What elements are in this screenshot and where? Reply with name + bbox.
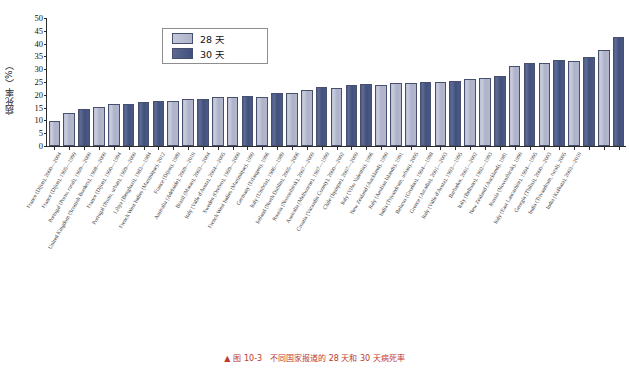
legend-label-28d: 28 天 — [200, 32, 225, 46]
bar — [583, 57, 595, 146]
x-tick-mark — [54, 146, 55, 150]
chart-legend: 28 天 30 天 — [162, 28, 268, 64]
x-tick-mark — [559, 146, 560, 150]
figure-caption: ▲图 10-3 不同国家报道的 28 天和 30 天病死率 — [0, 352, 629, 371]
bar — [405, 83, 417, 146]
x-tick-mark — [233, 146, 234, 150]
y-tick-label: 50 — [35, 14, 44, 23]
bar — [494, 76, 506, 146]
x-tick-mark — [426, 146, 427, 150]
x-tick-mark — [470, 146, 471, 150]
x-tick-mark — [247, 146, 248, 150]
bar — [316, 87, 328, 146]
bar — [613, 37, 625, 146]
bar — [197, 99, 209, 146]
bar — [435, 82, 447, 146]
bar — [153, 101, 165, 146]
bar — [242, 96, 254, 146]
caption-text: 图 10-3 不同国家报道的 28 天和 30 天病死率 — [233, 354, 404, 363]
x-tick-mark — [203, 146, 204, 150]
bar — [286, 93, 298, 146]
caption-marker: ▲ — [224, 354, 230, 363]
bar — [568, 61, 580, 147]
y-tick-label: 20 — [35, 91, 44, 100]
bar — [360, 84, 372, 146]
x-tick-mark — [604, 146, 605, 150]
x-tick-mark — [322, 146, 323, 150]
x-tick-mark — [277, 146, 278, 150]
bar — [167, 101, 179, 146]
x-tick-mark — [515, 146, 516, 150]
x-tick-mark — [99, 146, 100, 150]
bar — [93, 107, 105, 146]
x-tick-mark — [485, 146, 486, 150]
bar — [598, 50, 610, 147]
legend-item-30d: 30 天 — [163, 46, 267, 61]
x-tick-mark — [574, 146, 575, 150]
x-tick-mark — [530, 146, 531, 150]
bar — [390, 83, 402, 146]
x-tick-mark — [381, 146, 382, 150]
x-tick-mark — [114, 146, 115, 150]
x-tick-mark — [366, 146, 367, 150]
bar — [449, 81, 461, 146]
y-axis-ticks: 05101520253035404550 — [20, 18, 46, 146]
bar — [271, 93, 283, 146]
x-tick-mark — [292, 146, 293, 150]
x-tick-mark — [544, 146, 545, 150]
y-tick-label: 0 — [39, 142, 43, 151]
y-tick-label: 30 — [35, 65, 44, 74]
bar — [509, 66, 521, 146]
bar — [464, 79, 476, 146]
bar — [524, 63, 536, 146]
bar — [78, 109, 90, 146]
x-tick-mark — [351, 146, 352, 150]
bar — [420, 82, 432, 146]
x-tick-mark — [84, 146, 85, 150]
bar — [553, 60, 565, 146]
x-tick-mark — [262, 146, 263, 150]
bar — [301, 90, 313, 146]
x-tick-mark — [144, 146, 145, 150]
x-tick-mark — [440, 146, 441, 150]
bar — [108, 104, 120, 146]
y-tick-label: 45 — [35, 27, 44, 36]
bar — [331, 88, 343, 146]
x-axis-labels: France (Dijon), 2000—2004France (Dijon),… — [47, 151, 626, 271]
bar — [539, 63, 551, 146]
y-axis-label: 病死率（%） — [2, 28, 20, 148]
bar — [256, 97, 268, 146]
legend-item-28d: 28 天 — [163, 31, 267, 46]
y-tick-label: 25 — [35, 78, 44, 87]
bar — [479, 78, 491, 146]
x-tick-mark — [619, 146, 620, 150]
y-tick-label: 35 — [35, 52, 44, 61]
y-tick-label: 15 — [35, 104, 44, 113]
bar — [63, 113, 75, 146]
bar — [212, 97, 224, 146]
bar — [182, 99, 194, 146]
bar — [375, 85, 387, 146]
x-tick-mark — [337, 146, 338, 150]
x-tick-mark — [411, 146, 412, 150]
x-tick-mark — [69, 146, 70, 150]
x-tick-mark — [589, 146, 590, 150]
bar — [346, 85, 358, 146]
legend-label-30d: 30 天 — [200, 47, 225, 61]
x-tick-mark — [129, 146, 130, 150]
bar-chart: 病死率（%） 05101520253035404550 28 天 30 天 Fr… — [0, 0, 629, 371]
bar — [49, 121, 61, 146]
x-tick-mark — [218, 146, 219, 150]
y-tick-label: 10 — [35, 116, 44, 125]
x-tick-mark — [307, 146, 308, 150]
x-tick-mark — [173, 146, 174, 150]
y-tick-label: 5 — [39, 129, 43, 138]
plot-area — [47, 18, 626, 146]
legend-swatch-28d — [172, 33, 193, 44]
bar — [227, 97, 239, 146]
x-tick-mark — [500, 146, 501, 150]
x-tick-mark — [188, 146, 189, 150]
bar — [138, 102, 150, 146]
y-tick-label: 40 — [35, 40, 44, 49]
x-tick-mark — [455, 146, 456, 150]
